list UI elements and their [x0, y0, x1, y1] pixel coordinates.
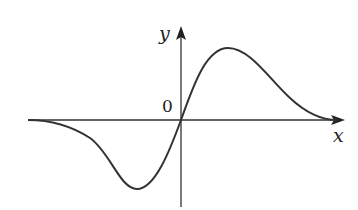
graph: y x 0 [0, 0, 358, 210]
origin-label: 0 [162, 96, 173, 116]
function-curve [28, 48, 337, 189]
x-axis-label: x [333, 124, 344, 146]
y-axis-label: y [158, 22, 170, 44]
